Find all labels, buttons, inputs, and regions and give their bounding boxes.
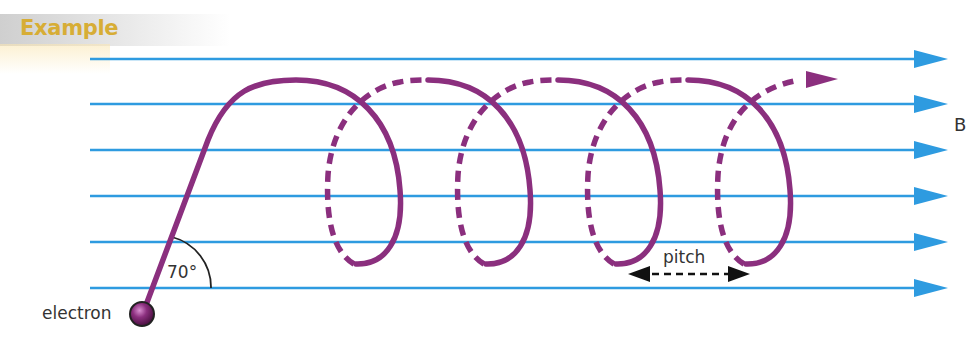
helix-solid	[146, 80, 791, 305]
field-line-6	[90, 279, 948, 297]
field-line-1	[90, 50, 948, 68]
electron-particle	[130, 302, 154, 326]
helix-arrowhead	[806, 71, 838, 88]
pitch-label: pitch	[663, 247, 705, 267]
angle-label: 70°	[167, 262, 197, 282]
field-label: B	[954, 114, 966, 135]
magnetic-field-lines	[90, 50, 948, 297]
field-line-2	[90, 95, 948, 113]
electron-label: electron	[42, 303, 111, 323]
field-line-4	[90, 187, 948, 205]
helix-diagram	[0, 0, 974, 339]
pitch-arrow	[628, 266, 750, 282]
